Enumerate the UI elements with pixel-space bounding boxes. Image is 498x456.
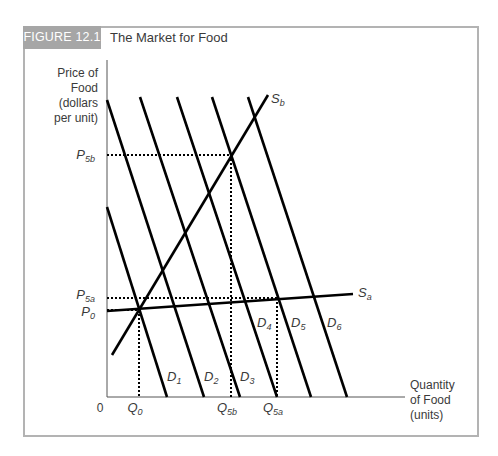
curve-label-d6: D6	[327, 315, 341, 332]
curve-label-sb: Sb	[271, 91, 285, 108]
y-tick-p5a: P5a	[76, 287, 95, 304]
curve-label-d3: D3	[240, 369, 254, 386]
curve-label-d5: D5	[291, 315, 306, 332]
curve-label-d2: D2	[204, 369, 218, 386]
curve-label-d4: D4	[257, 315, 271, 332]
x-tick-q5b: Q5b	[217, 400, 237, 417]
y-tick-p5b: P5b	[76, 147, 95, 164]
curve-labels: D1D2D3D4D5D6SaSb	[167, 91, 372, 386]
market-for-food-chart: D1D2D3D4D5D6SaSb Q0Q5bQ5aP5bP5aP0 Price …	[0, 0, 498, 456]
curve-label-sa: Sa	[358, 285, 372, 302]
origin-label: 0	[97, 401, 104, 415]
x-tick-q0: Q0	[127, 400, 142, 417]
y-tick-p0: P0	[81, 304, 95, 321]
x-tick-q5a: Q5a	[263, 400, 283, 417]
curve-d1	[107, 207, 167, 397]
x-axis-label: Quantityof Food(units)	[410, 378, 455, 422]
y-axis-label: Price ofFood(dollarsper unit)	[54, 66, 99, 125]
curve-label-d1: D1	[167, 369, 181, 386]
